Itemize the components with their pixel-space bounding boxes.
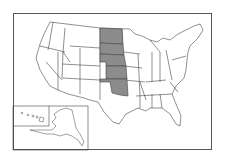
state-south-dakota[interactable] — [100, 43, 124, 55]
state-north-dakota[interactable] — [100, 28, 123, 44]
us-map — [0, 0, 225, 162]
inset-divider — [13, 106, 49, 126]
hawaii-inset — [21, 112, 44, 122]
inset-box — [13, 106, 88, 150]
alaska-inset — [30, 108, 84, 146]
state-kansas[interactable] — [106, 66, 127, 79]
